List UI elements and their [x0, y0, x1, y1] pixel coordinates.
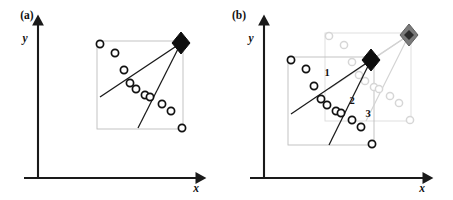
ghost-data-point	[348, 58, 355, 65]
panel-b-bounding-box	[288, 57, 374, 145]
data-point	[323, 101, 330, 108]
data-point	[132, 85, 139, 92]
data-point	[357, 123, 364, 130]
ray-lower	[138, 43, 181, 128]
ghost-data-point	[325, 32, 332, 39]
ray-ghost-lower	[366, 35, 409, 121]
data-point	[158, 100, 165, 107]
data-point	[348, 116, 355, 123]
panel-a-bounding-box	[97, 41, 183, 129]
ghost-data-point	[340, 41, 347, 48]
panel-a: (a) y x	[20, 9, 199, 194]
data-point	[111, 49, 118, 56]
data-point	[96, 40, 103, 47]
data-point	[126, 79, 133, 86]
panel-b: (b) y x 123	[232, 9, 425, 194]
panel-a-y-axis-label: y	[20, 32, 28, 45]
panel-b-label: (b)	[232, 9, 246, 22]
data-point	[146, 93, 153, 100]
data-point	[337, 109, 344, 116]
ghost-data-point	[406, 116, 413, 123]
panel-b-y-axis-label: y	[246, 32, 254, 45]
data-point	[287, 56, 294, 63]
ghost-data-point	[375, 85, 382, 92]
panel-a-data-points	[96, 40, 185, 131]
data-point	[302, 65, 309, 72]
data-point	[167, 107, 174, 114]
figure-canvas: (a) y x (b) y x 123	[0, 0, 453, 200]
data-point	[178, 124, 185, 131]
panel-b-reference-diamond	[362, 49, 380, 71]
correspondence-label: 1	[324, 67, 329, 78]
correspondence-label: 2	[349, 95, 354, 106]
panel-b-data-points	[287, 56, 375, 147]
data-point	[310, 82, 317, 89]
data-point	[368, 140, 375, 147]
ghost-data-point	[355, 71, 362, 78]
ghost-data-point	[386, 92, 393, 99]
panel-a-label: (a)	[20, 9, 34, 22]
data-point	[120, 66, 127, 73]
data-point	[317, 95, 324, 102]
panel-a-reference-diamond	[172, 32, 190, 54]
panel-b-x-axis-label: x	[418, 182, 425, 194]
ghost-data-point	[395, 99, 402, 106]
panel-a-x-axis-label: x	[192, 182, 199, 194]
correspondence-label: 3	[365, 108, 370, 119]
